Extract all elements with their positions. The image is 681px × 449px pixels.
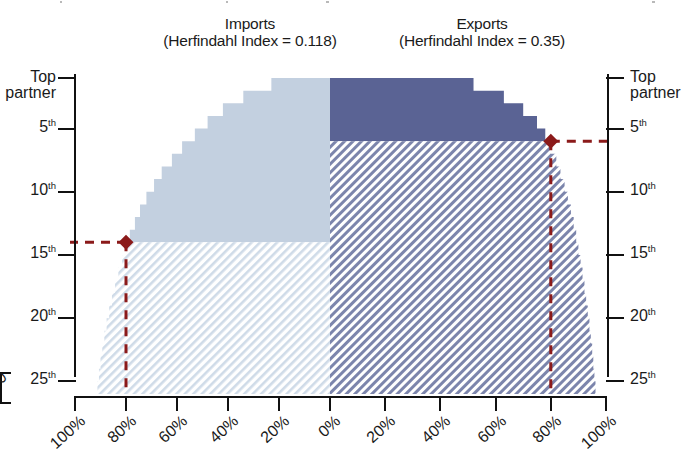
y-tick-label-left-20: 20th: [30, 307, 56, 325]
y-tick-right-1: [606, 77, 624, 79]
y-tick-label-right-25: 25th: [630, 370, 656, 388]
y-tick-label-right-10: 10th: [630, 181, 656, 199]
y-tick-label-line2: partner: [5, 85, 56, 101]
y-tick-label-left-10: 10th: [30, 181, 56, 199]
y-tick-ordinal: th: [648, 243, 656, 254]
y-tick-left-5: [58, 128, 76, 130]
x-tick-l20: [278, 396, 280, 411]
y-tick-label-left-5: 5th: [39, 118, 56, 136]
y-tick-ordinal: th: [48, 369, 56, 380]
y-tick-ordinal: th: [48, 243, 56, 254]
x-tick-r100: [605, 396, 607, 411]
y-tick-ordinal: th: [48, 306, 56, 317]
y-tick-ordinal: th: [648, 306, 656, 317]
y-tick-label-line2: partner: [630, 85, 681, 101]
y-tick-label-left-1: Toppartner: [5, 69, 56, 101]
y-tick-number: 20: [30, 307, 48, 324]
x-axis-line: [74, 396, 607, 398]
y-tick-label-left-15: 15th: [30, 244, 56, 262]
y-tick-number: 25: [30, 371, 48, 388]
x-tick-r80: [550, 396, 552, 411]
y-tick-number: 25: [630, 371, 648, 388]
y-tick-right-25: [606, 380, 624, 382]
y-axis-left-spine: [74, 74, 76, 377]
y-tick-label-right-1: Toppartner: [630, 69, 681, 101]
x-tick-r40: [439, 396, 441, 411]
y-tick-left-20: [58, 317, 76, 319]
y-tick-number: 5: [39, 118, 48, 135]
y-tick-number: 15: [30, 244, 48, 261]
y-tick-ordinal: th: [48, 117, 56, 128]
y-tick-label-left-25: 25th: [30, 370, 56, 388]
y-tick-number: 10: [630, 181, 648, 198]
y-tick-label-line1: Top: [5, 69, 56, 85]
y-tick-ordinal: th: [648, 180, 656, 191]
x-tick-l40: [227, 396, 229, 411]
y-tick-ordinal: th: [639, 117, 647, 128]
y-tick-number: 10: [30, 181, 48, 198]
y-tick-label-right-5: 5th: [630, 118, 647, 136]
y-tick-right-10: [606, 191, 624, 193]
y-tick-right-15: [606, 254, 624, 256]
y-tick-right-5: [606, 128, 624, 130]
x-tick-l100: [74, 396, 76, 411]
y-tick-number: 15: [630, 244, 648, 261]
y-tick-label-line1: Top: [630, 69, 681, 85]
y-tick-number: 5: [630, 118, 639, 135]
y-tick-ordinal: th: [48, 180, 56, 191]
y-tick-label-right-20: 20th: [630, 307, 656, 325]
x-tick-l80: [125, 396, 127, 411]
y-tick-left-10: [58, 191, 76, 193]
x-tick-l0: [329, 396, 331, 411]
y-axis-right-spine: [607, 74, 609, 377]
y-tick-number: 20: [630, 307, 648, 324]
y-tick-left-15: [58, 254, 76, 256]
y-tick-ordinal: th: [648, 369, 656, 380]
y-tick-left-1: [58, 77, 76, 79]
y-tick-left-25: [58, 380, 76, 382]
y-tick-right-20: [606, 317, 624, 319]
y-tick-label-right-15: 15th: [630, 244, 656, 262]
x-tick-l60: [176, 396, 178, 411]
x-tick-r60: [495, 396, 497, 411]
x-tick-r20: [384, 396, 386, 411]
